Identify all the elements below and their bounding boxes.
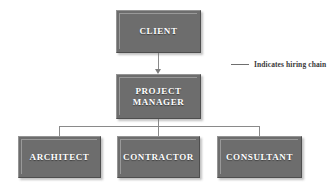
node-consultant-label: CONSULTANT [226,152,293,163]
org-chart-diagram: CLIENT PROJECT MANAGER ARCHITECT CONTRAC… [0,0,334,189]
connector-horizontal-bus [59,126,260,127]
node-contractor-label: CONTRACTOR [123,152,194,163]
node-project-manager-label: PROJECT MANAGER [133,86,185,108]
node-contractor[interactable]: CONTRACTOR [117,136,200,178]
legend-line-swatch [231,64,249,65]
node-project-manager[interactable]: PROJECT MANAGER [116,74,201,119]
node-architect[interactable]: ARCHITECT [18,136,101,178]
node-architect-label: ARCHITECT [30,152,90,163]
legend: Indicates hiring chain [231,60,326,69]
connector-drop-architect [59,126,60,136]
legend-label: Indicates hiring chain [254,60,326,69]
connector-drop-contractor [158,126,159,136]
node-consultant[interactable]: CONSULTANT [217,136,302,178]
connector-drop-consultant [259,126,260,136]
node-client-label: CLIENT [139,26,177,37]
node-client[interactable]: CLIENT [116,10,201,53]
